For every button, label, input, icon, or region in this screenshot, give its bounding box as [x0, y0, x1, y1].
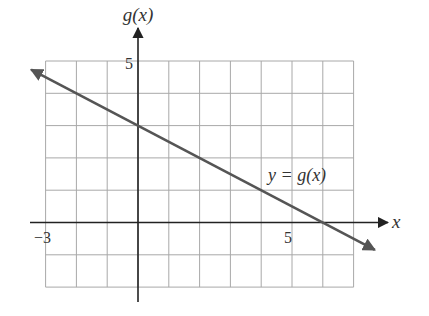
y-tick-label-5: 5 [125, 55, 133, 72]
curve-label: y = g(x) [266, 165, 326, 186]
x-tick-label-neg3: −3 [34, 229, 51, 246]
x-axis-label: x [391, 211, 401, 232]
graph-canvas: g(x) x −3 5 5 y = g(x) [0, 0, 429, 316]
y-axis-label: g(x) [123, 4, 154, 26]
x-tick-label-5: 5 [284, 229, 292, 246]
